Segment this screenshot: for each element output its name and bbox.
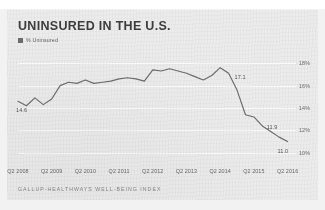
chart-source: GALLUP-HEALTHWAYS WELL-BEING INDEX xyxy=(18,186,161,192)
data-point-annotation: 11.0 xyxy=(278,148,289,154)
x-axis: Q2 2008Q2 2009Q2 2010Q2 2011Q2 2012Q2 20… xyxy=(18,168,308,178)
cutoff-text: cut-off line of text above the chart xyxy=(4,0,180,2)
x-axis-tick-label: Q2 2012 xyxy=(142,168,163,174)
x-axis-tick-label: Q2 2010 xyxy=(75,168,96,174)
series-line-chart xyxy=(18,52,296,164)
y-axis-tick-label: 14% xyxy=(299,105,310,111)
series-line xyxy=(18,68,288,142)
y-axis-tick-label: 16% xyxy=(299,83,310,89)
x-axis-tick-label: Q2 2013 xyxy=(176,168,197,174)
chart-title: UNINSURED IN THE U.S. xyxy=(18,19,171,33)
data-point-annotation: 17.1 xyxy=(235,74,246,80)
data-point-annotation: 14.6 xyxy=(16,107,27,113)
data-point-annotation: 11.9 xyxy=(267,124,278,130)
chart-legend: % Uninsured xyxy=(18,37,58,43)
x-axis-tick-label: Q2 2014 xyxy=(209,168,230,174)
chart-card: UNINSURED IN THE U.S. % Uninsured 18%16%… xyxy=(7,10,318,200)
x-axis-tick-label: Q2 2016 xyxy=(277,168,298,174)
x-axis-tick-label: Q2 2009 xyxy=(41,168,62,174)
plot-area xyxy=(18,52,296,164)
y-axis-tick-label: 12% xyxy=(299,127,310,133)
x-axis-tick-label: Q2 2008 xyxy=(7,168,28,174)
y-axis-tick-label: 18% xyxy=(299,60,310,66)
y-axis: 18%16%14%12%10% xyxy=(299,52,318,164)
legend-label: % Uninsured xyxy=(26,37,58,43)
x-axis-tick-label: Q2 2015 xyxy=(243,168,264,174)
page-top-text-strip: cut-off line of text above the chart xyxy=(0,0,325,9)
y-axis-tick-label: 10% xyxy=(299,150,310,156)
x-axis-tick-label: Q2 2011 xyxy=(109,168,130,174)
legend-swatch-icon xyxy=(18,38,23,43)
screenshot-root: cut-off line of text above the chart UNI… xyxy=(0,0,325,210)
